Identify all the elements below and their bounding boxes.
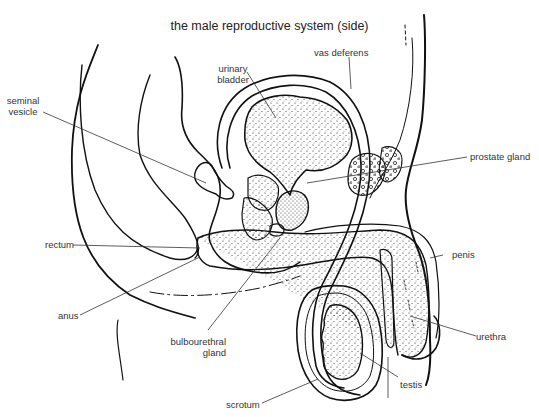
label-bulbourethral-gland-line1: bulbourethral bbox=[168, 336, 226, 347]
label-bulbourethral-gland: bulbourethral gland bbox=[168, 336, 226, 358]
penis-shape bbox=[197, 224, 440, 359]
label-bulbourethral-gland-line2: gland bbox=[168, 347, 226, 358]
label-rectum: rectum bbox=[45, 239, 74, 250]
spine-contour bbox=[72, 45, 198, 380]
testis-shape bbox=[322, 305, 363, 380]
diagram-title: the male reproductive system (side) bbox=[0, 19, 539, 33]
label-urinary-bladder-line1: urinary bbox=[210, 63, 256, 74]
label-seminal-vesicle: seminal vesicle bbox=[0, 95, 46, 117]
label-urinary-bladder: urinary bladder bbox=[210, 63, 256, 85]
label-testis: testis bbox=[400, 379, 422, 390]
diagram-canvas: the male reproductive system (side) semi… bbox=[0, 0, 539, 417]
label-penis: penis bbox=[452, 249, 475, 260]
label-urinary-bladder-line2: bladder bbox=[210, 74, 256, 85]
label-seminal-vesicle-line1: seminal bbox=[0, 95, 46, 106]
label-seminal-vesicle-line2: vesicle bbox=[0, 106, 46, 117]
label-prostate-gland: prostate gland bbox=[470, 151, 530, 162]
label-urethra: urethra bbox=[476, 331, 506, 342]
label-anus: anus bbox=[58, 310, 79, 321]
anatomy-illustration bbox=[0, 0, 539, 417]
label-vas-deferens: vas deferens bbox=[314, 47, 368, 58]
label-scrotum: scrotum bbox=[226, 399, 260, 410]
